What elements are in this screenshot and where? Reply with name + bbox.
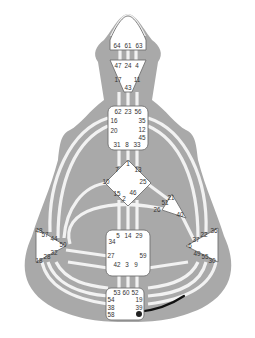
gate-32: 32 bbox=[50, 249, 58, 256]
gate-58: 58 bbox=[107, 311, 115, 318]
gate-44: 44 bbox=[50, 235, 58, 242]
gate-23: 23 bbox=[124, 108, 132, 115]
gate-35: 35 bbox=[138, 117, 146, 124]
gate-29: 29 bbox=[135, 232, 143, 239]
gate-45: 45 bbox=[138, 134, 146, 141]
bodygraph-diagram: 64 61 63 47 24 4 17 11 43 62 23 56 16 35… bbox=[0, 0, 255, 338]
gate-17: 17 bbox=[114, 76, 122, 83]
gate-49: 49 bbox=[193, 250, 201, 257]
gate-46: 46 bbox=[129, 189, 137, 196]
gate-20: 20 bbox=[110, 127, 118, 134]
gate-37: 37 bbox=[192, 236, 200, 243]
gate-42: 42 bbox=[113, 261, 121, 268]
gate-8: 8 bbox=[125, 141, 129, 148]
center-throat: 62 23 56 16 35 12 20 45 31 8 33 bbox=[108, 106, 148, 150]
gate-61: 61 bbox=[124, 42, 132, 49]
gate-57: 57 bbox=[41, 231, 49, 238]
gate-30: 30 bbox=[208, 257, 216, 264]
gate-15: 15 bbox=[113, 190, 121, 197]
gate-52: 52 bbox=[131, 289, 139, 296]
gate-18: 18 bbox=[35, 257, 43, 264]
gate-12: 12 bbox=[138, 126, 146, 133]
gate-53: 53 bbox=[113, 289, 121, 296]
gate-25: 25 bbox=[139, 178, 147, 185]
center-sacral: 5 14 29 34 27 59 42 3 9 bbox=[106, 230, 150, 276]
gate-64: 64 bbox=[113, 42, 121, 49]
center-head: 64 61 63 bbox=[110, 16, 146, 50]
gate-33: 33 bbox=[133, 141, 141, 148]
gate-22: 22 bbox=[200, 231, 208, 238]
active-gate-41-marker bbox=[136, 311, 142, 317]
gate-6: 6 bbox=[188, 242, 192, 249]
gate-14: 14 bbox=[124, 232, 132, 239]
gate-5: 5 bbox=[116, 232, 120, 239]
gate-2: 2 bbox=[122, 195, 126, 202]
gate-1: 1 bbox=[126, 160, 130, 167]
gate-9: 9 bbox=[134, 261, 138, 268]
gate-40: 40 bbox=[176, 211, 184, 218]
gate-16: 16 bbox=[110, 117, 118, 124]
gate-51: 51 bbox=[161, 199, 169, 206]
gate-24: 24 bbox=[124, 62, 132, 69]
gate-39: 39 bbox=[135, 304, 143, 311]
gate-27: 27 bbox=[107, 252, 115, 259]
gate-62: 62 bbox=[114, 108, 122, 115]
gate-21: 21 bbox=[167, 194, 175, 201]
gate-36: 36 bbox=[210, 227, 218, 234]
gate-38: 38 bbox=[107, 304, 115, 311]
gate-59: 59 bbox=[139, 252, 147, 259]
gate-60: 60 bbox=[122, 289, 130, 296]
gate-34: 34 bbox=[108, 238, 116, 245]
gate-7: 7 bbox=[115, 166, 119, 173]
gate-13: 13 bbox=[134, 166, 142, 173]
gate-26: 26 bbox=[153, 206, 161, 213]
gate-47: 47 bbox=[114, 62, 122, 69]
gate-11: 11 bbox=[134, 76, 141, 83]
gate-28: 28 bbox=[43, 253, 51, 260]
gate-56: 56 bbox=[134, 108, 142, 115]
gate-54: 54 bbox=[107, 296, 115, 303]
gate-19: 19 bbox=[135, 296, 143, 303]
gate-3: 3 bbox=[125, 261, 129, 268]
gate-10: 10 bbox=[102, 178, 110, 185]
gate-4: 4 bbox=[135, 62, 139, 69]
gate-43: 43 bbox=[124, 84, 132, 91]
gate-31: 31 bbox=[113, 141, 121, 148]
gate-50: 50 bbox=[59, 241, 67, 248]
center-root: 53 60 52 54 19 38 39 58 bbox=[106, 288, 144, 320]
gate-63: 63 bbox=[135, 42, 143, 49]
